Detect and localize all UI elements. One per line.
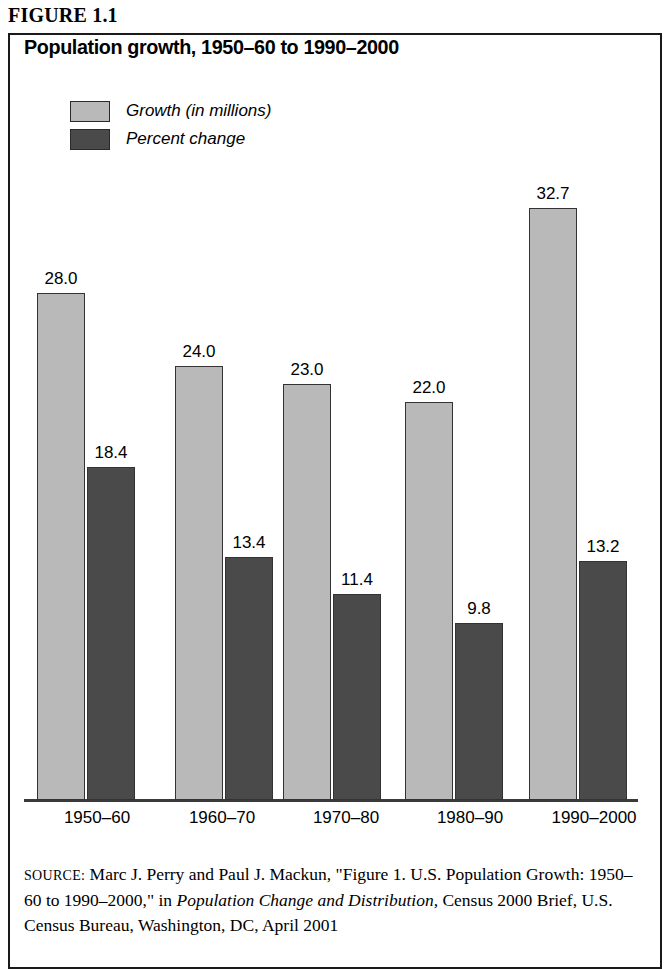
figure-border-box	[8, 33, 662, 969]
source-prefix: SOURCE:	[24, 868, 85, 883]
source-note: SOURCE: Marc J. Perry and Paul J. Mackun…	[24, 862, 638, 938]
figure-page: FIGURE 1.1 Population growth, 1950–60 to…	[0, 0, 672, 969]
source-publication-title: Population Change and Distribution,	[177, 890, 439, 910]
figure-number-label: FIGURE 1.1	[8, 2, 118, 28]
legend-swatch-growth-icon	[70, 101, 110, 122]
legend-label-percent: Percent change	[126, 126, 245, 152]
chart-title: Population growth, 1950–60 to 1990–2000	[24, 35, 399, 59]
legend-swatch-percent-icon	[70, 129, 110, 150]
legend-label-growth: Growth (in millions)	[126, 98, 271, 124]
